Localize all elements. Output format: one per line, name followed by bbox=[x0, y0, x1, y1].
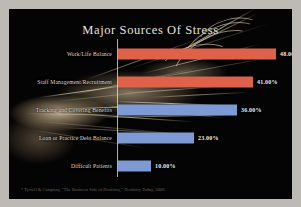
bar-shape[interactable] bbox=[118, 77, 253, 88]
chart-canvas: Major Sources Of Stress Work/Life Balanc… bbox=[9, 9, 292, 199]
bar-category-label: Tracking and Covering Benefits bbox=[9, 107, 112, 113]
bar-value-label: 36.00% bbox=[241, 107, 262, 113]
bar-row[interactable]: Loan or Practice Debt Balance23.00% bbox=[9, 124, 292, 152]
bar-row[interactable]: Difficult Patients10.00% bbox=[9, 152, 292, 180]
chart-title: Major Sources Of Stress bbox=[9, 23, 292, 38]
bar-category-label: Difficult Patients bbox=[9, 163, 112, 169]
bar-category-label: Staff Management/Recruitment bbox=[9, 79, 112, 85]
bar-category-label: Loan or Practice Debt Balance bbox=[9, 135, 112, 141]
bar-shape[interactable] bbox=[118, 105, 237, 116]
source-footnote: * Tyrrell & Company, "The Business Side … bbox=[21, 187, 279, 192]
bar-category-label: Work/Life Balance bbox=[9, 51, 112, 57]
plot-area: Work/Life Balance48.00%Staff Management/… bbox=[9, 39, 292, 179]
bar-value-label: 48.00% bbox=[280, 51, 292, 57]
bar-row[interactable]: Tracking and Covering Benefits36.00% bbox=[9, 96, 292, 124]
bar-shape[interactable] bbox=[118, 133, 194, 144]
bar-value-label: 23.00% bbox=[198, 135, 219, 141]
bar-row[interactable]: Work/Life Balance48.00% bbox=[9, 40, 292, 68]
bar-value-label: 41.00% bbox=[257, 79, 278, 85]
slide-frame: Major Sources Of Stress Work/Life Balanc… bbox=[0, 0, 301, 207]
bar-shape[interactable] bbox=[118, 49, 276, 60]
bar-row[interactable]: Staff Management/Recruitment41.00% bbox=[9, 68, 292, 96]
bar-value-label: 10.00% bbox=[155, 163, 176, 169]
bar-shape[interactable] bbox=[118, 161, 151, 172]
